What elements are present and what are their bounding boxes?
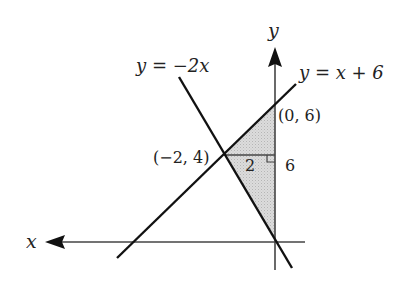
coordinate-plane: x y y = −2x y = x + 6 (0, 6) (−2, 4) 2 6: [0, 0, 415, 286]
x-axis-label: x: [26, 230, 37, 252]
y-axis-arrow-icon: [268, 47, 282, 67]
x-axis-arrow-icon: [45, 235, 65, 249]
line-2-label: y = x + 6: [298, 62, 384, 83]
point-0-6-label: (0, 6): [278, 106, 321, 125]
base-length-label: 2: [245, 156, 255, 175]
point-neg2-4-label: (−2, 4): [153, 148, 209, 167]
diagram-canvas: x y y = −2x y = x + 6 (0, 6) (−2, 4) 2 6: [0, 0, 415, 286]
y-axis-label: y: [267, 19, 279, 41]
height-length-label: 6: [285, 156, 295, 175]
line-1-label: y = −2x: [135, 55, 209, 76]
